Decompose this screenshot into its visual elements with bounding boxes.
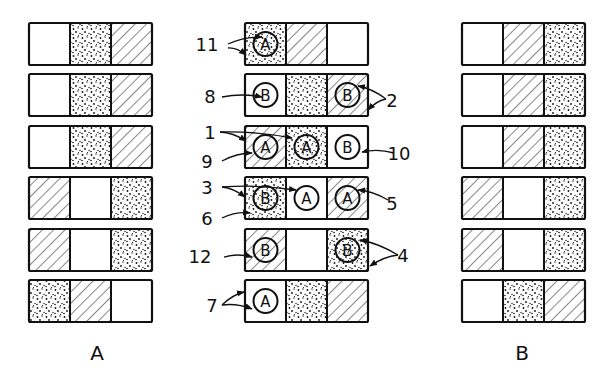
cell-blank <box>70 229 111 271</box>
cell-dotted <box>286 74 327 116</box>
column-a-strip <box>29 23 152 65</box>
cell-hatched <box>111 126 152 168</box>
patent-figure: ABBAABBAABBA 118219103651247 A B <box>0 0 611 373</box>
column-a <box>29 23 152 322</box>
cell-hatched <box>544 280 585 322</box>
svg-text:A: A <box>260 36 271 54</box>
cell-dotted <box>544 229 585 271</box>
column-b-strip <box>462 126 585 168</box>
callout-6: 6 <box>201 208 250 229</box>
cell-blank <box>462 74 503 116</box>
column-label-b: B <box>515 341 529 365</box>
cell-blank <box>286 229 327 271</box>
column-b <box>462 23 585 322</box>
cell-hatched <box>111 23 152 65</box>
cell-dotted <box>544 126 585 168</box>
reference-numeral: 7 <box>206 295 217 316</box>
reference-numeral: 12 <box>189 246 212 267</box>
svg-text:B: B <box>260 87 270 105</box>
cell-hatched <box>111 74 152 116</box>
svg-text:A: A <box>301 190 312 208</box>
column-b-strip <box>462 177 585 219</box>
reference-numeral: 8 <box>204 86 215 107</box>
column-b-strip <box>462 229 585 271</box>
svg-text:B: B <box>342 87 352 105</box>
cell-hatched <box>503 126 544 168</box>
cell-hatched <box>286 23 327 65</box>
cell-dotted <box>111 177 152 219</box>
reference-numeral: 5 <box>386 193 397 214</box>
cell-dotted <box>70 74 111 116</box>
cell-dotted <box>544 177 585 219</box>
svg-text:A: A <box>260 293 271 311</box>
cell-dotted <box>503 280 544 322</box>
cell-blank <box>462 280 503 322</box>
reference-numeral: 11 <box>196 34 219 55</box>
cell-blank <box>462 126 503 168</box>
leader-arrow <box>222 187 245 197</box>
cell-blank <box>462 23 503 65</box>
cell-hatched <box>503 74 544 116</box>
cell-dotted <box>70 23 111 65</box>
reference-numeral: 6 <box>201 208 212 229</box>
leader-arrow <box>220 132 246 141</box>
callout-12: 12 <box>189 246 252 267</box>
svg-text:B: B <box>260 190 270 208</box>
column-b-strip <box>462 280 585 322</box>
cell-dotted <box>29 280 70 322</box>
cell-hatched <box>503 23 544 65</box>
column-b-strip <box>462 74 585 116</box>
svg-text:B: B <box>342 242 352 260</box>
cell-dotted <box>286 280 327 322</box>
leader-arrow <box>222 292 244 305</box>
reference-numeral: 9 <box>201 151 212 172</box>
reference-numeral: 4 <box>397 245 408 266</box>
cell-hatched <box>462 229 503 271</box>
column-a-strip <box>29 126 152 168</box>
svg-text:A: A <box>260 139 271 157</box>
svg-text:B: B <box>342 139 352 157</box>
svg-text:A: A <box>301 139 312 157</box>
cell-hatched <box>327 280 368 322</box>
cell-blank <box>503 177 544 219</box>
cell-blank <box>29 74 70 116</box>
leader-arrow <box>370 255 398 266</box>
column-a-strip <box>29 74 152 116</box>
reference-numeral: 1 <box>204 122 215 143</box>
leader-arrow <box>228 48 246 55</box>
cell-hatched <box>462 177 503 219</box>
column-center: ABBAABBAABBA <box>245 23 368 322</box>
svg-text:A: A <box>342 190 353 208</box>
reference-numeral: 2 <box>386 90 397 111</box>
cell-blank <box>503 229 544 271</box>
callout-10: 10 <box>362 143 410 164</box>
column-a-strip <box>29 280 152 322</box>
cell-blank <box>111 280 152 322</box>
cell-dotted <box>70 126 111 168</box>
svg-text:B: B <box>260 242 270 260</box>
cell-blank <box>29 23 70 65</box>
reference-numeral: 3 <box>201 177 212 198</box>
cell-blank <box>29 126 70 168</box>
cell-dotted <box>111 229 152 271</box>
cell-hatched <box>70 280 111 322</box>
cell-blank <box>327 23 368 65</box>
column-label-a: A <box>90 341 104 365</box>
cell-blank <box>70 177 111 219</box>
cell-hatched <box>29 229 70 271</box>
column-a-strip <box>29 229 152 271</box>
cell-dotted <box>544 74 585 116</box>
reference-numeral: 10 <box>388 143 411 164</box>
cell-hatched <box>29 177 70 219</box>
leader-arrow <box>368 99 386 110</box>
column-b-strip <box>462 23 585 65</box>
column-a-strip <box>29 177 152 219</box>
cell-dotted <box>544 23 585 65</box>
